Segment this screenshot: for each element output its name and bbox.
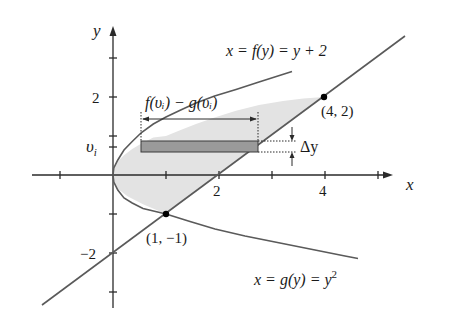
y-tick-label-neg2: −2 — [80, 246, 96, 262]
x-axis-label: x — [405, 175, 414, 194]
point-4-2-label: (4, 2) — [321, 103, 354, 120]
area-between-curves-diagram: y x 2 4 2 −2 υi x = f(y) = y + 2 x = g(y… — [0, 0, 449, 318]
width-arrow-left-icon — [142, 117, 149, 122]
x-tick-label-2: 2 — [213, 183, 221, 199]
vi-label: υi — [86, 137, 97, 158]
y-axis-arrow-icon — [110, 26, 117, 36]
point-1-neg1-label: (1, −1) — [146, 230, 187, 247]
x-tick-label-4: 4 — [319, 183, 327, 199]
y-tick-label-2: 2 — [92, 90, 100, 106]
point-1-neg1 — [163, 211, 169, 217]
representative-rectangle — [141, 141, 258, 152]
y-axis-label: y — [91, 21, 101, 40]
delta-arrow-down-icon — [290, 135, 295, 141]
x-axis-arrow-icon — [383, 172, 393, 179]
point-4-2 — [321, 94, 327, 100]
width-label: f(υᵢ) − g(υᵢ) — [145, 94, 217, 112]
curve-f-label: x = f(y) = y + 2 — [225, 42, 327, 60]
delta-y-label: Δy — [300, 138, 318, 156]
curve-g-label: x = g(y) = y2 — [253, 268, 337, 289]
delta-arrow-up-icon — [290, 152, 295, 158]
curve-f-line — [42, 36, 405, 305]
